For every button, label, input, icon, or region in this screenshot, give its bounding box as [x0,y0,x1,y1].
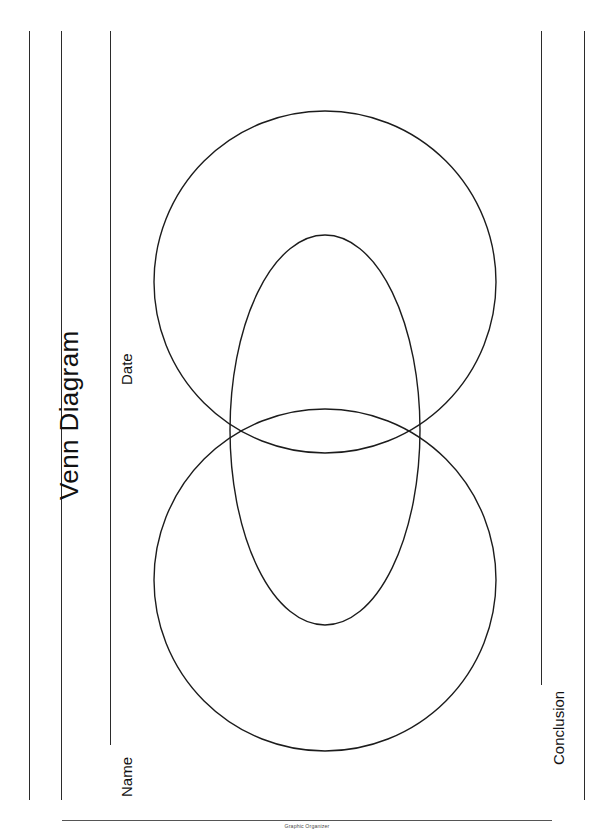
name-date-write-line [110,31,111,745]
worksheet-page: Venn Diagram Date Name Conclusion Graphi… [0,0,615,831]
conclusion-write-line [541,31,542,685]
venn-diagram-graphic [130,95,530,775]
margin-rule-outer-left [29,31,30,800]
conclusion-field-label: Conclusion [551,691,566,765]
footer-credit-text: Graphic Organizer [62,823,552,829]
venn-center-ellipse [230,235,420,625]
footer-divider [62,820,552,821]
venn-bottom-circle [154,409,496,751]
venn-top-circle [154,111,496,453]
margin-rule-outer-right [584,31,585,800]
page-title: Venn Diagram [56,330,82,500]
